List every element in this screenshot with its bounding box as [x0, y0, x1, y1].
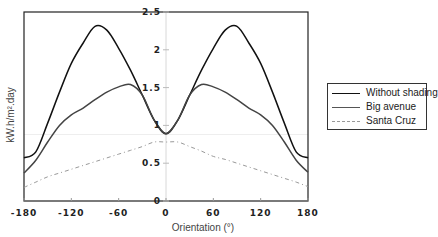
solid-line-swatch-icon	[332, 93, 360, 94]
y-tick-label: 2.5	[142, 7, 161, 17]
chart-legend: Without shading Big avenue Santa Cruz	[327, 83, 427, 130]
legend-item-santa-cruz: Santa Cruz	[328, 114, 428, 128]
legend-label: Without shading	[366, 86, 438, 100]
y-axis-label: kW.h/m².day	[5, 87, 16, 143]
x-tick-label: -60	[109, 208, 128, 218]
dashdot-line-swatch-icon	[332, 121, 360, 122]
legend-label: Big avenue	[366, 100, 416, 114]
y-tick-label: 1.5	[142, 83, 161, 93]
y-tick-label: 1	[154, 120, 161, 130]
y-tick-label: 0	[154, 196, 161, 206]
x-tick-label: 120	[250, 208, 272, 218]
y-axis-ticks: 00.511.522.5	[142, 7, 169, 206]
gray-line-swatch-icon	[332, 107, 360, 108]
x-tick-label: 180	[297, 208, 319, 218]
x-tick-label: -180	[11, 208, 38, 218]
x-tick-label: -120	[58, 208, 85, 218]
x-tick-label: 60	[206, 208, 221, 218]
y-tick-label: 2	[154, 45, 161, 55]
x-axis-label: Orientation (°)	[172, 222, 234, 233]
legend-item-big-avenue: Big avenue	[328, 100, 428, 114]
y-tick-label: 0.5	[142, 158, 161, 168]
legend-label: Santa Cruz	[366, 114, 416, 128]
legend-item-without-shading: Without shading	[328, 86, 428, 100]
x-tick-label: 0	[162, 208, 169, 218]
